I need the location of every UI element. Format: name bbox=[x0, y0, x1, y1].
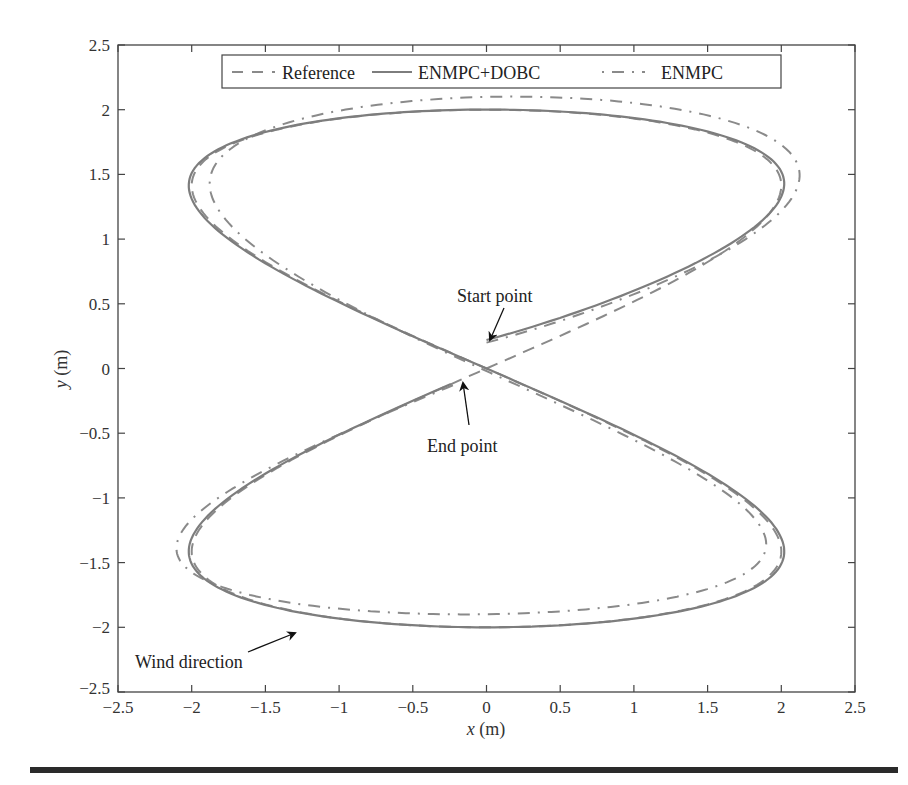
y-tick-label: −2 bbox=[92, 618, 110, 637]
legend-reference-label: Reference bbox=[282, 63, 355, 83]
x-tick-label: −2.5 bbox=[103, 698, 134, 717]
y-tick-label: −0.5 bbox=[79, 424, 110, 443]
y-tick-label: 0.5 bbox=[89, 295, 110, 314]
x-tick-label: 2 bbox=[777, 698, 786, 717]
end-point-arrow-icon bbox=[463, 383, 469, 425]
x-tick-label: −1 bbox=[330, 698, 348, 717]
y-tick-label: 1.5 bbox=[89, 165, 110, 184]
y-tick-label: 2 bbox=[102, 101, 111, 120]
x-tick-label: 0 bbox=[482, 698, 491, 717]
x-tick-label: −2 bbox=[183, 698, 201, 717]
legend-enmpc-dobc-label: ENMPC+DOBC bbox=[418, 63, 540, 83]
wind-direction-label: Wind direction bbox=[135, 652, 243, 672]
y-tick-label: −2.5 bbox=[79, 679, 110, 698]
x-tick-label: −0.5 bbox=[397, 698, 428, 717]
bottom-rule bbox=[30, 767, 898, 773]
x-tick-label: −1.5 bbox=[250, 698, 281, 717]
y-tick-label: −1.5 bbox=[79, 554, 110, 573]
x-tick-label: 0.5 bbox=[550, 698, 571, 717]
y-tick-label: 0 bbox=[102, 360, 111, 379]
start-point-label: Start point bbox=[457, 286, 533, 306]
x-tick-label: 1 bbox=[630, 698, 639, 717]
y-axis-label: y (m) bbox=[51, 350, 72, 391]
legend-enmpc-label: ENMPC bbox=[661, 63, 723, 83]
chart-canvas: −2.5−2−1.5−1−0.500.511.522.5 2.521.510.5… bbox=[0, 0, 908, 785]
enmpc-curve bbox=[176, 97, 799, 615]
y-tick-label: 2.5 bbox=[89, 36, 110, 55]
y-tick-label: −1 bbox=[92, 489, 110, 508]
wind-direction-arrow-icon bbox=[248, 633, 295, 652]
legend: Reference ENMPC+DOBC ENMPC bbox=[222, 55, 781, 88]
x-tick-label: 1.5 bbox=[697, 698, 718, 717]
x-tick-label: 2.5 bbox=[844, 698, 865, 717]
y-tick-label: 1 bbox=[102, 230, 111, 249]
end-point-label: End point bbox=[427, 436, 498, 456]
enmpc-dobc-curve bbox=[189, 110, 784, 628]
y-axis-ticks: 2.521.510.50−0.5−1−1.5−2−2.5 bbox=[79, 36, 855, 698]
x-axis-label: x (m) bbox=[466, 719, 506, 740]
